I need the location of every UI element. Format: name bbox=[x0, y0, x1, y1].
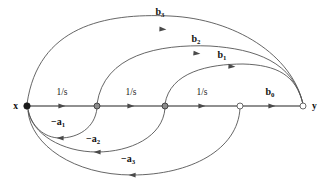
gain-label--a3: −a3 bbox=[121, 153, 136, 165]
gain-label--a1: −a1 bbox=[51, 116, 66, 128]
node-label-y: y bbox=[312, 101, 317, 111]
arrow--a1 bbox=[57, 136, 64, 141]
arrow--a3 bbox=[129, 173, 136, 178]
node-n1 bbox=[94, 103, 100, 109]
edge-b1 bbox=[165, 64, 303, 104]
arrow--a2 bbox=[94, 150, 101, 155]
node-y bbox=[300, 103, 306, 109]
gain-label-integrator-1: 1/s bbox=[125, 87, 136, 97]
graph-canvas: xy1/s1/s1/sb0b3b2b1−a1−a2−a3 bbox=[0, 0, 326, 183]
signal-flow-graph-figure: xy1/s1/s1/sb0b3b2b1−a1−a2−a3 bbox=[0, 0, 326, 183]
forward-path-arrow-2 bbox=[198, 104, 205, 109]
gain-label-b3: b3 bbox=[156, 6, 166, 18]
gain-label--a2: −a2 bbox=[86, 133, 101, 145]
forward-path-arrow-1 bbox=[127, 104, 134, 109]
forward-path-arrow-3 bbox=[268, 104, 275, 109]
gain-label-b2: b2 bbox=[192, 33, 202, 45]
gain-label-b1: b1 bbox=[218, 49, 228, 61]
label-layer: xy1/s1/s1/sb0b3b2b1−a1−a2−a3 bbox=[13, 6, 317, 165]
edge-layer bbox=[27, 16, 303, 178]
gain-label-b0: b0 bbox=[266, 86, 276, 98]
node-label-x: x bbox=[13, 101, 18, 111]
node-n3 bbox=[237, 103, 243, 109]
arrow-b3 bbox=[159, 27, 166, 32]
gain-label-integrator-0: 1/s bbox=[56, 87, 67, 97]
forward-path-arrow-0 bbox=[58, 104, 65, 109]
gain-label-integrator-2: 1/s bbox=[196, 87, 207, 97]
node-n2 bbox=[162, 103, 168, 109]
arrow-b2 bbox=[193, 51, 200, 56]
node-x bbox=[24, 103, 30, 109]
